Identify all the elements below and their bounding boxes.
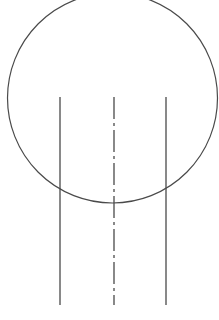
outline-circle <box>8 0 218 203</box>
technical-drawing <box>0 0 219 320</box>
